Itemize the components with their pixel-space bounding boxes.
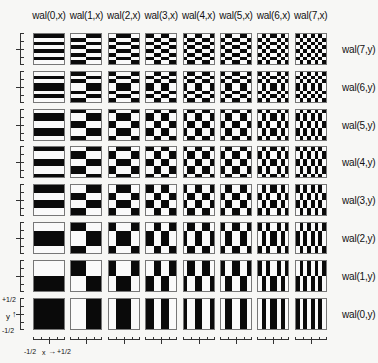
walsh-cell-7-5: [295, 109, 327, 141]
x-axis-ticks: [183, 337, 215, 345]
walsh-cell-0-2: [33, 222, 65, 254]
y-axis-ticks: [16, 260, 26, 292]
walsh-cell-1-6: [70, 71, 102, 103]
walsh-cell-5-1: [220, 260, 252, 292]
walsh-cell-5-3: [220, 184, 252, 216]
walsh-cell-6-6: [257, 71, 289, 103]
walsh-cell-1-1: [70, 260, 102, 292]
walsh-cell-4-1: [183, 260, 215, 292]
walsh-cell-3-5: [145, 109, 177, 141]
column-label: wal(6,x): [253, 10, 293, 21]
walsh-cell-5-4: [220, 146, 252, 178]
walsh-cell-5-0: [220, 298, 252, 330]
walsh-cell-0-5: [33, 109, 65, 141]
walsh-cell-7-2: [295, 222, 327, 254]
x-axis-ticks: [145, 337, 177, 345]
walsh-cell-7-3: [295, 184, 327, 216]
walsh-cell-6-2: [257, 222, 289, 254]
y-axis-ticks: [16, 33, 26, 65]
walsh-cell-6-1: [257, 260, 289, 292]
x-axis-ticks: [295, 337, 327, 345]
walsh-cell-5-5: [220, 109, 252, 141]
row-label: wal(5,y): [342, 120, 375, 131]
walsh-cell-6-7: [257, 33, 289, 65]
y-axis-ticks: [16, 71, 26, 103]
x-axis-right-label: +1/2: [57, 348, 71, 355]
walsh-cell-5-7: [220, 33, 252, 65]
row-label: wal(6,y): [342, 82, 375, 93]
walsh-cell-3-3: [145, 184, 177, 216]
walsh-cell-1-7: [70, 33, 102, 65]
walsh-cell-1-4: [70, 146, 102, 178]
walsh-cell-2-6: [108, 71, 140, 103]
walsh-cell-3-4: [145, 146, 177, 178]
walsh-cell-7-7: [295, 33, 327, 65]
walsh-cell-6-5: [257, 109, 289, 141]
walsh-cell-4-3: [183, 184, 215, 216]
column-label: wal(2,x): [104, 10, 144, 21]
x-axis-ticks: [70, 337, 102, 345]
y-axis-ticks: [16, 184, 26, 216]
x-axis-left-label: -1/2: [24, 348, 36, 355]
walsh-cell-0-0: [33, 298, 65, 330]
walsh-cell-2-4: [108, 146, 140, 178]
column-label: wal(0,x): [29, 10, 69, 21]
walsh-cell-7-0: [295, 298, 327, 330]
x-axis-name: x: [42, 349, 46, 356]
walsh-cell-0-7: [33, 33, 65, 65]
walsh-cell-7-4: [295, 146, 327, 178]
walsh-cell-1-0: [70, 298, 102, 330]
walsh-cell-7-6: [295, 71, 327, 103]
column-label: wal(3,x): [141, 10, 181, 21]
walsh-cell-2-1: [108, 260, 140, 292]
y-axis-arrow-icon: ↑: [12, 309, 17, 319]
walsh-cell-4-0: [183, 298, 215, 330]
walsh-cell-0-1: [33, 260, 65, 292]
row-label: wal(7,y): [342, 44, 375, 55]
walsh-cell-1-5: [70, 109, 102, 141]
walsh-cell-3-1: [145, 260, 177, 292]
walsh-cell-0-6: [33, 71, 65, 103]
y-axis-name: y: [6, 312, 10, 321]
walsh-cell-5-6: [220, 71, 252, 103]
walsh-cell-4-2: [183, 222, 215, 254]
y-axis-top-label: +1/2: [2, 296, 16, 303]
walsh-cell-2-0: [108, 298, 140, 330]
walsh-cell-0-4: [33, 146, 65, 178]
walsh-cell-3-0: [145, 298, 177, 330]
walsh-cell-6-4: [257, 146, 289, 178]
walsh-cell-4-5: [183, 109, 215, 141]
walsh-cell-1-3: [70, 184, 102, 216]
column-label: wal(5,x): [216, 10, 256, 21]
row-label: wal(2,y): [342, 233, 375, 244]
walsh-cell-4-4: [183, 146, 215, 178]
walsh-cell-6-0: [257, 298, 289, 330]
row-label: wal(0,y): [342, 309, 375, 320]
x-axis-ticks: [33, 337, 65, 345]
row-label: wal(4,y): [342, 157, 375, 168]
column-label: wal(4,x): [179, 10, 219, 21]
walsh-cell-2-7: [108, 33, 140, 65]
walsh-cell-1-2: [70, 222, 102, 254]
column-label: wal(1,x): [66, 10, 106, 21]
walsh-cell-3-6: [145, 71, 177, 103]
x-axis-ticks: [108, 337, 140, 345]
y-axis-bottom-label: -1/2: [2, 327, 14, 334]
y-axis-ticks: [16, 222, 26, 254]
walsh-cell-3-7: [145, 33, 177, 65]
walsh-cell-2-2: [108, 222, 140, 254]
walsh-cell-2-3: [108, 184, 140, 216]
row-label: wal(3,y): [342, 195, 375, 206]
walsh-cell-6-3: [257, 184, 289, 216]
walsh-cell-2-5: [108, 109, 140, 141]
walsh-cell-7-1: [295, 260, 327, 292]
walsh-cell-0-3: [33, 184, 65, 216]
walsh-cell-4-6: [183, 71, 215, 103]
column-label: wal(7,x): [291, 10, 331, 21]
walsh-cell-3-2: [145, 222, 177, 254]
x-axis-ticks: [257, 337, 289, 345]
y-axis-ticks: [16, 298, 26, 330]
x-axis-arrow-icon: →: [48, 347, 56, 356]
walsh-cell-5-2: [220, 222, 252, 254]
x-axis-ticks: [220, 337, 252, 345]
